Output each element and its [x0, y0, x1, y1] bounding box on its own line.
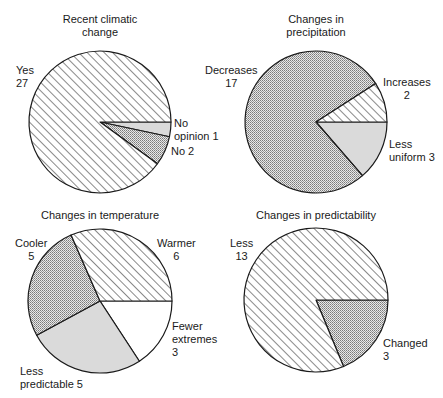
label-line: 13 [230, 250, 253, 263]
label-line: predictable 5 [20, 378, 83, 391]
title-line: Changes in predictability [246, 209, 386, 222]
label-line: 27 [16, 77, 34, 90]
label-line: Less [389, 138, 435, 151]
label-line: 3 [383, 350, 428, 363]
label-line: Less [230, 237, 253, 250]
label-line: Yes [16, 64, 34, 77]
title-line: Recent climatic [50, 13, 150, 26]
pie-changes-in-precipitation [245, 51, 387, 193]
label-line: Fewer [172, 320, 217, 333]
pie-charts-canvas [0, 0, 443, 398]
label-line: No [174, 117, 219, 130]
slice-label-less: Less 13 [230, 237, 253, 263]
slice-label-no: No 2 [171, 145, 194, 158]
slice-label-changed: Changed 3 [383, 337, 428, 363]
label-line: Cooler [15, 237, 47, 250]
label-line: No 2 [171, 145, 194, 158]
slice-label-less-uniform: Less uniform 3 [389, 138, 435, 164]
pie-slice-yes [29, 51, 171, 193]
slice-label-fewer-extremes: Fewer extremes 3 [172, 320, 217, 359]
label-line: Changed [383, 337, 428, 350]
label-line: Increases [383, 76, 431, 89]
label-line: Decreases [205, 64, 258, 77]
label-line: 6 [157, 250, 196, 263]
label-line: Less [20, 365, 83, 378]
title-line: Changes in [266, 13, 366, 26]
label-line: 5 [15, 250, 47, 263]
chart-title-recent-climatic-change: Recent climatic change [50, 13, 150, 39]
label-line: Warmer [157, 237, 196, 250]
pie-recent-climatic-change [29, 51, 171, 193]
slice-label-cooler: Cooler 5 [15, 237, 47, 263]
label-line: opinion 1 [174, 130, 219, 143]
slice-label-decreases: Decreases 17 [205, 64, 258, 90]
label-line: uniform 3 [389, 151, 435, 164]
title-line: Changes in temperature [30, 209, 170, 222]
chart-title-changes-in-precipitation: Changes in precipitation [266, 13, 366, 39]
pie-chart-figure: Recent climatic change Yes 27 No opinion… [0, 0, 443, 398]
title-line: precipitation [266, 26, 366, 39]
slice-label-no-opinion: No opinion 1 [174, 117, 219, 143]
label-line: 17 [205, 77, 258, 90]
title-line: change [50, 26, 150, 39]
label-line: extremes [172, 333, 217, 346]
slice-label-yes: Yes 27 [16, 64, 34, 90]
label-line: 2 [383, 89, 431, 102]
slice-label-warmer: Warmer 6 [157, 237, 196, 263]
slice-label-increases: Increases 2 [383, 76, 431, 102]
pie-changes-in-predictability [244, 228, 388, 372]
chart-title-changes-in-temperature: Changes in temperature [30, 209, 170, 222]
label-line: 3 [172, 346, 217, 359]
chart-title-changes-in-predictability: Changes in predictability [246, 209, 386, 222]
slice-label-less-predictable: Less predictable 5 [20, 365, 83, 391]
pie-changes-in-temperature [28, 229, 172, 373]
